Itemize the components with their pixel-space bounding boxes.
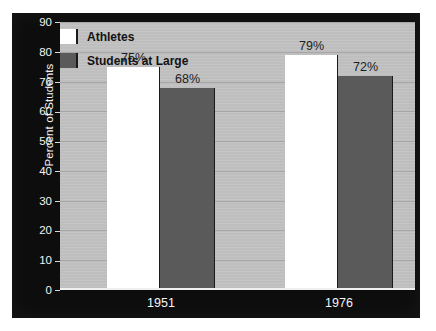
y-tick-40-text: 40 bbox=[39, 165, 52, 177]
y-tick-60: 60 bbox=[30, 105, 60, 117]
legend-label-athletes: Athletes bbox=[87, 30, 134, 44]
y-tick-90-text: 90 bbox=[39, 16, 52, 28]
chart-legend: Athletes Students at Large bbox=[60, 29, 188, 77]
legend-swatch-icon-students-at-large bbox=[60, 53, 78, 68]
bar-value-1976-students-at-large: 72% bbox=[338, 60, 393, 74]
y-tick-80-text: 80 bbox=[39, 46, 52, 58]
bar-chart-figure: Percent of Students 90 80 70 60 50 40 30… bbox=[0, 0, 436, 331]
axis-baseline bbox=[60, 288, 415, 290]
y-tick-20-text: 20 bbox=[39, 224, 52, 236]
y-tick-0-text: 0 bbox=[46, 284, 52, 296]
y-tick-10: 10 bbox=[30, 254, 60, 266]
legend-label-students-at-large: Students at Large bbox=[87, 54, 188, 68]
y-tick-10-text: 10 bbox=[39, 254, 52, 266]
chart-frame: Percent of Students 90 80 70 60 50 40 30… bbox=[12, 13, 420, 318]
y-tick-30: 30 bbox=[30, 195, 60, 207]
gridline-90 bbox=[60, 22, 415, 23]
y-tick-40: 40 bbox=[30, 165, 60, 177]
legend-item-athletes[interactable]: Athletes bbox=[60, 29, 188, 44]
y-tick-60-text: 60 bbox=[39, 105, 52, 117]
y-tick-0: 0 bbox=[30, 284, 60, 296]
bar-1976-athletes[interactable] bbox=[285, 55, 338, 290]
bar-1976-students-at-large[interactable] bbox=[338, 76, 393, 290]
bar-1951-students-at-large[interactable] bbox=[160, 88, 215, 291]
legend-item-students-at-large[interactable]: Students at Large bbox=[60, 53, 188, 68]
y-tick-30-text: 30 bbox=[39, 195, 52, 207]
y-tick-70-text: 70 bbox=[39, 76, 52, 88]
bar-value-1976-athletes: 79% bbox=[285, 39, 338, 53]
x-tick-label-1976: 1976 bbox=[325, 296, 353, 310]
y-tick-90: 90 bbox=[30, 16, 60, 28]
y-tick-70: 70 bbox=[30, 76, 60, 88]
y-tick-20: 20 bbox=[30, 224, 60, 236]
x-axis-tick-labels: 1951 1976 bbox=[60, 292, 415, 316]
y-tick-50-text: 50 bbox=[39, 135, 52, 147]
bar-1951-athletes[interactable] bbox=[107, 67, 160, 290]
legend-swatch-icon-athletes bbox=[60, 29, 78, 44]
y-tick-50: 50 bbox=[30, 135, 60, 147]
y-tick-80: 80 bbox=[30, 46, 60, 58]
x-tick-label-1951: 1951 bbox=[147, 296, 175, 310]
y-axis-tick-labels: 90 80 70 60 50 40 30 20 10 0 bbox=[30, 22, 60, 290]
